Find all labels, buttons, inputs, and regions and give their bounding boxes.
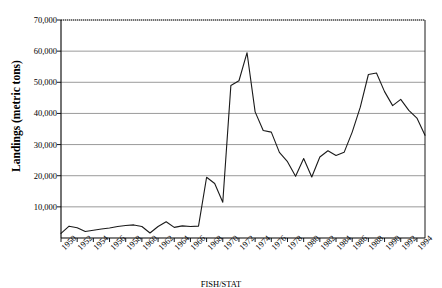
x-tick-label: 1962 — [156, 233, 175, 252]
x-tick-label: 1958 — [124, 233, 143, 252]
x-tick-label: 1956 — [108, 233, 127, 252]
x-tick-label: 1960 — [140, 233, 159, 252]
x-tick-label: 1952 — [75, 233, 94, 252]
x-tick-label: 1974 — [253, 233, 272, 252]
x-tick-label: 1950 — [59, 233, 78, 252]
x-tick-label: 1986 — [350, 233, 369, 252]
x-tick-label: 1978 — [285, 233, 304, 252]
x-tick-label: 1990 — [383, 233, 402, 252]
x-tick-label: 1972 — [237, 233, 256, 252]
x-axis-tick-labels: 1950195219541956195819601962196419661968… — [0, 0, 442, 288]
x-tick-label: 1968 — [205, 233, 224, 252]
chart-container: Landings (metric tons) 10,00020,00030,00… — [0, 0, 442, 288]
x-tick-label: 1994 — [415, 233, 434, 252]
x-tick-label: 1980 — [302, 233, 321, 252]
figure-caption: FISH/STAT — [0, 279, 442, 288]
x-tick-label: 1982 — [318, 233, 337, 252]
x-tick-label: 1964 — [172, 233, 191, 252]
x-tick-label: 1966 — [188, 233, 207, 252]
x-tick-label: 1988 — [366, 233, 385, 252]
x-tick-label: 1954 — [91, 233, 110, 252]
x-tick-label: 1992 — [399, 233, 418, 252]
x-tick-label: 1984 — [334, 233, 353, 252]
x-tick-label: 1970 — [221, 233, 240, 252]
